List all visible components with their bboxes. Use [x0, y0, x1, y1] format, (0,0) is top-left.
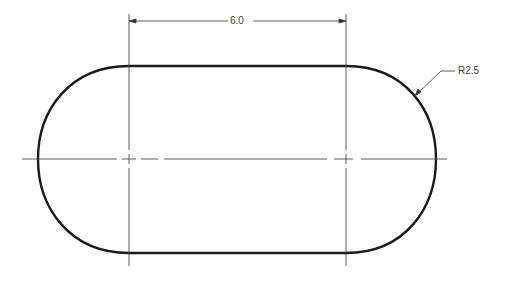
radius-label: R2.5 — [457, 66, 480, 76]
leader-arrowhead-icon — [415, 89, 421, 96]
arrowhead-right-icon — [339, 19, 346, 23]
slot-outline — [38, 66, 436, 253]
left-end-arc — [38, 66, 129, 253]
arrowhead-left-icon — [129, 19, 136, 23]
leader-line — [416, 71, 455, 95]
center-distance-label: 6.0 — [229, 16, 245, 26]
right-end-arc — [346, 66, 436, 253]
slot-drawing — [0, 0, 507, 281]
centerlines — [22, 14, 447, 266]
radius-leader — [415, 71, 455, 96]
